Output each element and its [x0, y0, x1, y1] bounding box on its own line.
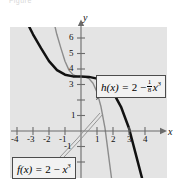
- f-exponent: 3: [67, 162, 71, 170]
- y-tick-label-6: 6: [69, 32, 74, 42]
- figure-container: Figure: [0, 0, 178, 186]
- f-term1: 2: [45, 163, 51, 175]
- h-equals: =: [121, 81, 128, 93]
- y-tick-label-1: 1: [71, 110, 76, 120]
- x-tick-label-1: 1: [95, 134, 100, 144]
- axis-lines: [11, 20, 167, 179]
- x-axis-label: x: [168, 126, 172, 137]
- x-tick-label--4: -4: [11, 134, 19, 144]
- h-frac-denominator: 8: [147, 86, 153, 94]
- curve-f: [55, 27, 111, 178]
- y-tick-label-5: 5: [69, 48, 74, 58]
- h-minus: −: [140, 81, 146, 93]
- h-fraction: 18: [147, 79, 153, 94]
- f-func-name: f(x): [17, 163, 32, 175]
- y-tick-label--1: -1: [64, 141, 72, 151]
- x-tick-label-3: 3: [127, 134, 132, 144]
- y-tick-label-3: 3: [69, 79, 74, 89]
- x-tick-label--3: -3: [27, 134, 35, 144]
- h-term1: 2: [132, 81, 138, 93]
- f-minus: −: [53, 163, 59, 175]
- x-tick-label--2: -2: [43, 134, 51, 144]
- y-tick-label-4: 4: [69, 63, 74, 73]
- h-frac-numerator: 1: [147, 79, 153, 86]
- h-exponent: 3: [158, 80, 162, 88]
- h-func-name: h(x): [101, 81, 119, 93]
- y-axis-label: y: [83, 12, 87, 23]
- callout-h-equation: h(x) = 2 −18x3: [96, 75, 166, 98]
- curve-h: [29, 27, 142, 178]
- callout-f-equation: f(x) = 2 − x3: [12, 157, 76, 179]
- x-tick-label-4: 4: [143, 134, 148, 144]
- x-tick-label-2: 2: [111, 134, 116, 144]
- f-equals: =: [35, 163, 42, 175]
